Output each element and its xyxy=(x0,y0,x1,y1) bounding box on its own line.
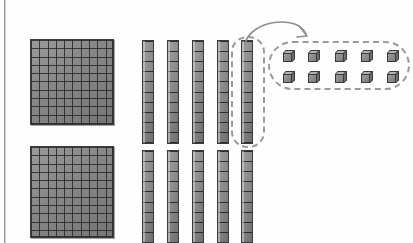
ten-rod-bottom-3[interactable] xyxy=(192,150,204,243)
unit-cube-10[interactable] xyxy=(387,71,399,83)
cube-side-face xyxy=(370,71,373,83)
cube-side-face xyxy=(292,71,295,83)
unit-cube-7[interactable] xyxy=(308,71,320,83)
cube-front-face xyxy=(308,53,317,62)
cube-side-face xyxy=(370,50,373,62)
unit-cube-8[interactable] xyxy=(335,71,347,83)
cube-front-face xyxy=(308,74,317,83)
ten-rod-top-2[interactable] xyxy=(167,40,179,144)
unit-cube-9[interactable] xyxy=(361,71,373,83)
cube-front-face xyxy=(335,74,344,83)
cube-front-face xyxy=(335,53,344,62)
cube-side-face xyxy=(344,50,347,62)
cube-front-face xyxy=(361,53,370,62)
cube-side-face xyxy=(344,71,347,83)
ten-rod-top-1[interactable] xyxy=(142,40,154,144)
regrouped-rod-highlight xyxy=(231,36,265,148)
cube-side-face xyxy=(396,50,399,62)
unit-cube-2[interactable] xyxy=(308,50,320,62)
ten-rod-top-4[interactable] xyxy=(217,40,229,144)
cube-front-face xyxy=(283,53,292,62)
blocks-diagram-canvas xyxy=(0,0,413,243)
cube-front-face xyxy=(387,74,396,83)
hundred-flat-top[interactable] xyxy=(30,39,114,125)
hundred-flat-bottom[interactable] xyxy=(30,146,114,238)
unit-cube-3[interactable] xyxy=(335,50,347,62)
unit-cube-6[interactable] xyxy=(283,71,295,83)
cube-side-face xyxy=(317,50,320,62)
ten-rod-bottom-4[interactable] xyxy=(217,150,229,243)
cube-side-face xyxy=(292,50,295,62)
unit-cube-4[interactable] xyxy=(361,50,373,62)
ten-rod-bottom-1[interactable] xyxy=(142,150,154,243)
scan-edge-line-soft xyxy=(5,0,6,243)
cube-front-face xyxy=(283,74,292,83)
ten-rod-bottom-5[interactable] xyxy=(241,150,253,243)
cube-side-face xyxy=(396,71,399,83)
ten-rod-bottom-2[interactable] xyxy=(167,150,179,243)
cube-front-face xyxy=(361,74,370,83)
cube-front-face xyxy=(387,53,396,62)
cube-side-face xyxy=(317,71,320,83)
unit-cube-5[interactable] xyxy=(387,50,399,62)
ten-rod-top-3[interactable] xyxy=(192,40,204,144)
unit-cube-1[interactable] xyxy=(283,50,295,62)
